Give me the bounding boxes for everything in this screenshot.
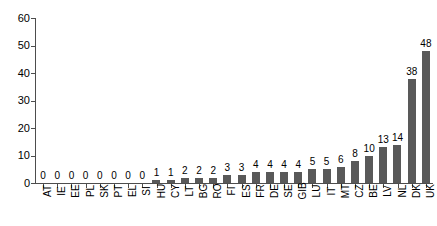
- bar-value-label: 2: [192, 166, 206, 176]
- x-axis-category-label: NL: [390, 189, 404, 223]
- bar-value-label: 5: [320, 157, 334, 167]
- bar-slot[interactable]: 48: [419, 18, 433, 183]
- bar[interactable]: [393, 145, 401, 184]
- x-axis-category-label: BG: [192, 189, 206, 223]
- x-axis-category-label: SE: [277, 189, 291, 223]
- bar-value-label: 10: [362, 144, 376, 154]
- bar-slot[interactable]: 5: [305, 18, 319, 183]
- bar[interactable]: [223, 175, 231, 183]
- bar-slot[interactable]: 3: [220, 18, 234, 183]
- bar[interactable]: [408, 79, 416, 184]
- bar-slot[interactable]: 2: [192, 18, 206, 183]
- bar-value-label: 5: [305, 157, 319, 167]
- y-axis-tick-mark: [31, 18, 35, 19]
- bar-value-label: 0: [36, 171, 50, 181]
- x-axis-category-label: CY: [164, 189, 178, 223]
- bar-slot[interactable]: 14: [390, 18, 404, 183]
- bar[interactable]: [351, 161, 359, 183]
- bar-slot[interactable]: 0: [93, 18, 107, 183]
- y-axis-tick-label: 40: [18, 68, 30, 79]
- bar-slot[interactable]: 1: [149, 18, 163, 183]
- bar-chart: 6050403020100 00000000112223344445568101…: [0, 0, 437, 226]
- x-axis-category-label: EE: [64, 189, 78, 223]
- bar-value-label: 0: [50, 171, 64, 181]
- bar-slot[interactable]: 4: [263, 18, 277, 183]
- bar-slot[interactable]: 0: [135, 18, 149, 183]
- x-axis-category-label: CZ: [348, 189, 362, 223]
- bar-value-label: 0: [64, 171, 78, 181]
- x-axis-category-label: EL: [121, 189, 135, 223]
- bar-value-label: 4: [291, 160, 305, 170]
- bar[interactable]: [238, 175, 246, 183]
- y-axis-tick-label: 20: [18, 123, 30, 134]
- bar-slot[interactable]: 0: [64, 18, 78, 183]
- bar-value-label: 1: [164, 168, 178, 178]
- bar-value-label: 48: [419, 39, 433, 49]
- bar-slot[interactable]: 2: [178, 18, 192, 183]
- bar[interactable]: [323, 169, 331, 183]
- y-axis-tick-mark: [31, 101, 35, 102]
- bar-slot[interactable]: 1: [164, 18, 178, 183]
- bar[interactable]: [266, 172, 274, 183]
- bar-slot[interactable]: 8: [348, 18, 362, 183]
- bar-slot[interactable]: 5: [320, 18, 334, 183]
- bar-value-label: 0: [121, 171, 135, 181]
- bar-value-label: 0: [79, 171, 93, 181]
- x-axis-category-label: ES: [235, 189, 249, 223]
- bar-slot[interactable]: 10: [362, 18, 376, 183]
- x-axis-category-label: PT: [107, 189, 121, 223]
- bar[interactable]: [252, 172, 260, 183]
- bar-value-label: 3: [220, 163, 234, 173]
- bar[interactable]: [294, 172, 302, 183]
- bar-slot[interactable]: 2: [206, 18, 220, 183]
- y-axis-tick-mark: [31, 183, 35, 184]
- bar[interactable]: [422, 51, 430, 183]
- bar-slot[interactable]: 0: [121, 18, 135, 183]
- x-axis-category-label: LV: [376, 189, 390, 223]
- y-axis-tick-label: 60: [18, 13, 30, 24]
- bar-value-label: 0: [107, 171, 121, 181]
- bar-slot[interactable]: 38: [405, 18, 419, 183]
- bar-value-label: 0: [93, 171, 107, 181]
- x-axis-category-label: FR: [249, 189, 263, 223]
- bar-slot[interactable]: 6: [334, 18, 348, 183]
- bar-value-label: 1: [149, 168, 163, 178]
- bar-value-label: 4: [277, 160, 291, 170]
- x-axis-category-label: AT: [36, 189, 50, 223]
- bar-value-label: 8: [348, 149, 362, 159]
- x-axis-category-label: LU: [305, 189, 319, 223]
- x-axis-category-label: FI: [220, 189, 234, 223]
- bar[interactable]: [365, 156, 373, 184]
- x-axis-category-label: RO: [206, 189, 220, 223]
- bar-value-label: 4: [263, 160, 277, 170]
- bar-slot[interactable]: 0: [79, 18, 93, 183]
- bar-slot[interactable]: 0: [50, 18, 64, 183]
- y-axis-tick-label: 30: [18, 95, 30, 106]
- bar-value-label: 6: [334, 155, 348, 165]
- plot-area: 000000001122233444455681013143848: [36, 18, 433, 183]
- bar-slot[interactable]: 0: [107, 18, 121, 183]
- bar-value-label: 13: [376, 135, 390, 145]
- y-axis-tick-mark: [31, 46, 35, 47]
- x-axis-category-label: SK: [93, 189, 107, 223]
- bar[interactable]: [308, 169, 316, 183]
- x-axis-category-label: UK: [419, 189, 433, 223]
- bar[interactable]: [379, 147, 387, 183]
- x-axis-category-label: HU: [149, 189, 163, 223]
- x-axis-category-label: DE: [263, 189, 277, 223]
- bar-slot[interactable]: 4: [277, 18, 291, 183]
- bar-slot[interactable]: 3: [235, 18, 249, 183]
- bar[interactable]: [280, 172, 288, 183]
- bar-slot[interactable]: 4: [291, 18, 305, 183]
- y-axis-tick-label: 50: [18, 40, 30, 51]
- x-axis-category-label-text: UK: [426, 184, 436, 198]
- bar-slot[interactable]: 13: [376, 18, 390, 183]
- bar[interactable]: [337, 167, 345, 184]
- x-axis-category-labels: ATIEEEPLSKPTELSIHUCYLTBGROFIESFRDESEGIBL…: [36, 189, 433, 226]
- bar-value-label: 2: [206, 166, 220, 176]
- y-axis-tick-labels: 6050403020100: [0, 0, 34, 226]
- bar-value-label: 4: [249, 160, 263, 170]
- bar-slot[interactable]: 0: [36, 18, 50, 183]
- bar-slot[interactable]: 4: [249, 18, 263, 183]
- x-axis-category-label: LT: [178, 189, 192, 223]
